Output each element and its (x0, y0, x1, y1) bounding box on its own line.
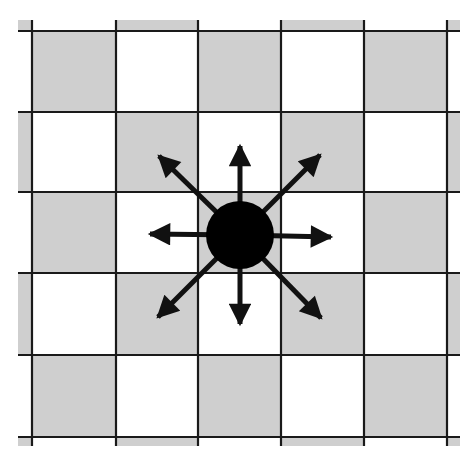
shaded-cell (198, 355, 281, 437)
white-cell (364, 112, 447, 192)
shaded-cell (18, 20, 32, 31)
shaded-cell (32, 192, 116, 273)
white-cell (281, 192, 364, 273)
shaded-cell (116, 20, 198, 31)
shaded-cell (18, 273, 32, 355)
shaded-cell (447, 273, 460, 355)
lattice-diagram (0, 0, 472, 450)
particle (206, 201, 274, 269)
white-cell (281, 355, 364, 437)
white-cell (32, 112, 116, 192)
white-cell (18, 192, 32, 273)
white-cell (364, 273, 447, 355)
shaded-cell (364, 31, 447, 112)
white-cell (18, 355, 32, 437)
white-cell (198, 20, 281, 31)
shaded-cell (281, 20, 364, 31)
shaded-cell (18, 112, 32, 192)
shaded-cell (364, 355, 447, 437)
white-cell (32, 273, 116, 355)
shaded-cell (18, 437, 32, 446)
white-cell (447, 192, 460, 273)
white-cell (198, 437, 281, 446)
white-cell (32, 20, 116, 31)
shaded-cell (32, 355, 116, 437)
white-cell (18, 31, 32, 112)
shaded-cell (32, 31, 116, 112)
shaded-cell (447, 112, 460, 192)
white-cell (32, 437, 116, 446)
shaded-cell (447, 437, 460, 446)
shaded-cell (447, 20, 460, 31)
shaded-cell (116, 273, 198, 355)
shaded-cell (198, 31, 281, 112)
white-cell (116, 355, 198, 437)
white-cell (116, 31, 198, 112)
shaded-cell (364, 192, 447, 273)
white-cell (281, 31, 364, 112)
white-cell (364, 20, 447, 31)
white-cell (447, 31, 460, 112)
white-cell (447, 355, 460, 437)
shaded-cell (281, 437, 364, 446)
shaded-cell (281, 273, 364, 355)
white-cell (364, 437, 447, 446)
shaded-cell (116, 437, 198, 446)
